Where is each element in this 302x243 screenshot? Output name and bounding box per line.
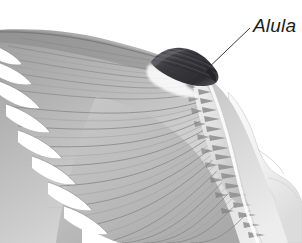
alula-label: Alula [253, 16, 296, 35]
wing-anatomy-figure: Alula [0, 0, 302, 243]
wing-illustration [0, 0, 302, 243]
